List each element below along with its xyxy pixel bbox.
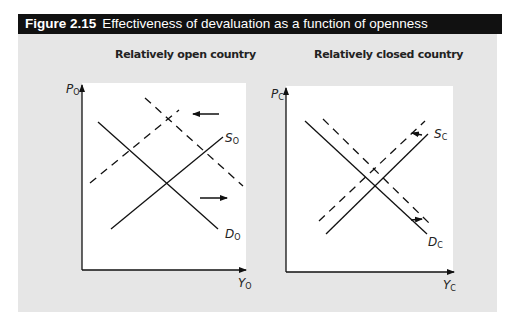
y-axis-label-open: PO: [66, 82, 80, 97]
diagram-canvas: PO YO SO DO PC YC SC DC: [0, 0, 521, 333]
x-axis-label-open: YO: [238, 276, 252, 291]
arrow-demand-shift-closed: [411, 219, 422, 220]
plot-area-open: [82, 83, 246, 270]
x-axis-label-closed: YC: [443, 278, 456, 293]
y-axis-label-closed: PC: [271, 87, 284, 102]
